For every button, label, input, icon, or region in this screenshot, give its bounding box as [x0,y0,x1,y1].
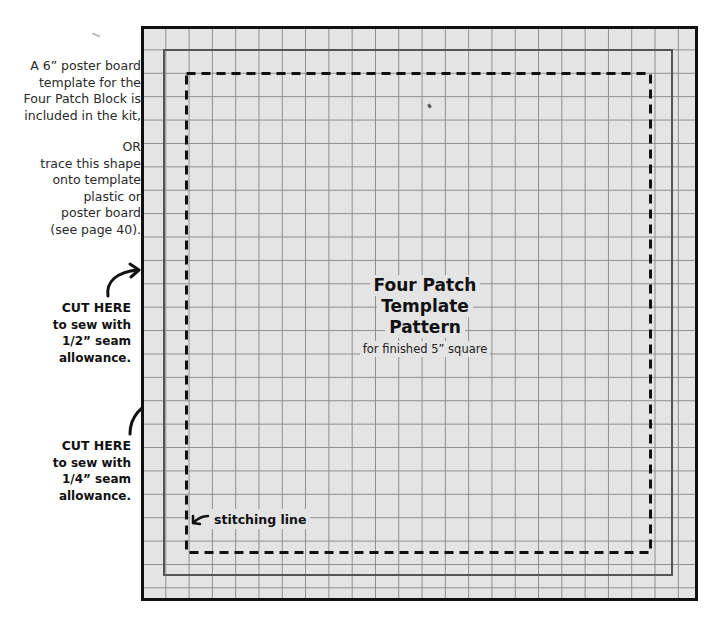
kit-note-line: A 6” poster board [24,58,142,75]
trace-note-line: (see page 40). [40,222,141,239]
template-subtitle: for finished 5” square [360,341,491,357]
cut-here-quarter-inch-label: CUT HERE to sew with 1/4” seam allowance… [53,438,131,504]
arrow-left-icon [190,511,210,527]
paper-mark [92,32,100,37]
curved-arrow-right-icon [102,262,144,298]
kit-note-line: included in the kit, [24,108,142,125]
trace-note-line: trace this shape [40,156,141,173]
trace-note-line: poster board [40,205,141,222]
title-line: Template [377,296,473,317]
cut-line: 1/2” seam [53,333,131,350]
stitching-line-label: stitching line [190,509,310,529]
template-title-block: Four Patch Template Pattern for finished… [345,275,505,357]
title-line: Pattern [385,317,465,338]
cut-here-half-inch-label: CUT HERE to sew with 1/2” seam allowance… [53,300,131,366]
cut-line: to sew with [53,455,131,472]
kit-note: A 6” poster board template for the Four … [24,58,142,124]
cut-line: allowance. [53,350,131,367]
title-line: Four Patch [370,275,481,296]
cut-line: to sew with [53,317,131,334]
trace-note: OR trace this shape onto template plasti… [40,139,141,238]
cut-line: 1/4” seam [53,471,131,488]
trace-note-line: onto template [40,172,141,189]
kit-note-line: Four Patch Block is [24,91,142,108]
cut-heading: CUT HERE [53,300,131,317]
kit-note-line: template for the [24,75,142,92]
trace-note-line: OR [40,139,141,156]
stitching-line-text: stitching line [214,512,306,527]
cut-line: allowance. [53,488,131,505]
trace-note-line: plastic or [40,189,141,206]
cut-heading: CUT HERE [53,438,131,455]
